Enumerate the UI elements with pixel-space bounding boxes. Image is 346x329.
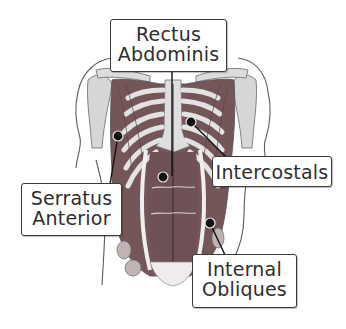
label-intercostals: Intercostals <box>212 156 332 187</box>
label-internal-obliques: Internal Obliques <box>192 254 297 308</box>
intercostals-pointer-dot <box>186 117 196 127</box>
serratus-pointer-dot <box>113 131 123 141</box>
label-text-line1: Rectus <box>111 24 226 44</box>
label-text-line2: Obliques <box>193 279 296 299</box>
label-text-line1: Internal <box>193 259 296 279</box>
anatomy-diagram: Rectus Abdominis Intercostals Serratus A… <box>0 0 346 329</box>
obliques-pointer-dot <box>205 218 215 228</box>
label-rectus-abdominis: Rectus Abdominis <box>110 19 227 72</box>
label-text-line1: Intercostals <box>213 162 331 182</box>
lower-abdomen <box>150 262 196 286</box>
label-text-line1: Serratus <box>22 188 121 208</box>
rectus-pointer-dot <box>158 172 168 182</box>
label-serratus-anterior: Serratus Anterior <box>21 183 122 236</box>
label-text-line2: Anterior <box>22 208 121 228</box>
label-text-line2: Abdominis <box>111 44 226 64</box>
